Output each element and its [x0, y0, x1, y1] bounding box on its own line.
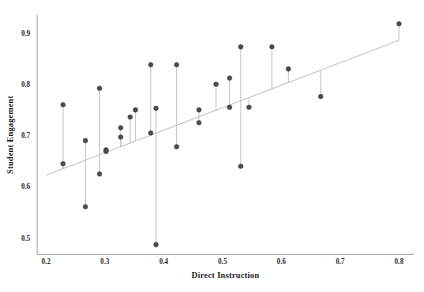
data-point — [247, 105, 252, 110]
data-point — [214, 82, 219, 87]
data-point — [118, 135, 123, 140]
data-point — [133, 108, 138, 113]
data-point — [397, 21, 402, 26]
data-point — [148, 131, 153, 136]
y-axis-title: Student Engagement — [6, 96, 15, 174]
axis-spines — [37, 15, 414, 254]
x-tick-label: 0.2 — [42, 258, 51, 266]
data-point — [174, 62, 179, 67]
data-point — [104, 149, 109, 154]
data-point — [154, 242, 159, 247]
scatter-plot-figure: 0.20.30.40.50.60.70.8 0.50.60.70.80.9 Di… — [0, 0, 424, 292]
x-tick-label: 0.3 — [100, 258, 109, 266]
data-point — [270, 45, 275, 50]
data-point — [83, 138, 88, 143]
residual-lines-group — [63, 24, 399, 245]
data-point — [238, 45, 243, 50]
plot-canvas: 0.20.30.40.50.60.70.8 0.50.60.70.80.9 Di… — [0, 0, 424, 292]
data-point — [238, 164, 243, 169]
x-tick-label: 0.4 — [159, 258, 168, 266]
data-point — [174, 144, 179, 149]
data-points-group — [61, 21, 402, 246]
y-axis-tick-labels: 0.50.60.70.80.9 — [21, 30, 30, 243]
y-tick-label: 0.7 — [21, 132, 30, 140]
y-tick-label: 0.6 — [21, 183, 30, 191]
x-tick-label: 0.8 — [395, 258, 404, 266]
data-point — [128, 115, 133, 120]
data-point — [148, 62, 153, 67]
regression-fit-line — [46, 40, 399, 175]
x-tick-label: 0.5 — [218, 258, 227, 266]
data-point — [227, 105, 232, 110]
data-point — [154, 106, 159, 111]
data-point — [118, 126, 123, 131]
data-point — [227, 76, 232, 81]
fit-line-path — [46, 40, 399, 175]
data-point — [318, 94, 323, 99]
data-point — [97, 86, 102, 91]
data-point — [97, 172, 102, 177]
data-point — [61, 161, 66, 166]
x-tick-label: 0.6 — [277, 258, 286, 266]
data-point — [83, 204, 88, 209]
data-point — [286, 67, 291, 72]
y-tick-label: 0.9 — [21, 30, 30, 38]
data-point — [197, 120, 202, 125]
data-point — [197, 108, 202, 113]
x-axis-title: Direct Instruction — [191, 271, 259, 280]
data-point — [61, 102, 66, 107]
x-axis-tick-labels: 0.20.30.40.50.60.70.8 — [42, 258, 404, 266]
x-tick-label: 0.7 — [336, 258, 345, 266]
y-tick-label: 0.8 — [21, 81, 30, 89]
y-tick-label: 0.5 — [21, 235, 30, 243]
